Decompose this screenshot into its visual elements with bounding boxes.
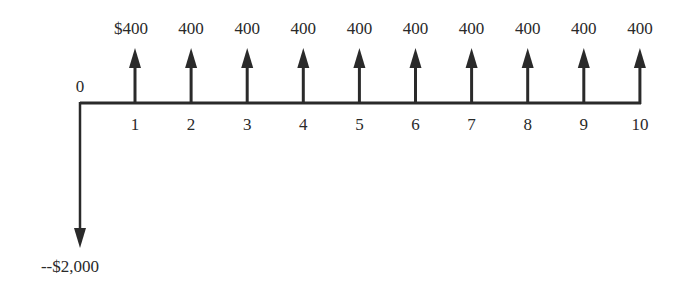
- period-label: 7: [467, 116, 476, 133]
- inflow-arrow-icon: [297, 48, 309, 104]
- inflow-arrow-icon: [634, 48, 646, 104]
- inflow-amount-label: 400: [291, 20, 317, 37]
- inflow-amount-label: 400: [571, 20, 597, 37]
- inflow-arrow-icon: [522, 48, 534, 104]
- inflow-amount-label: $400: [114, 20, 148, 37]
- period-label: 3: [243, 116, 252, 133]
- inflow-amount-label: 400: [459, 20, 485, 37]
- inflow-amount-label: 400: [627, 20, 653, 37]
- inflow-arrow-icon: [353, 48, 365, 104]
- outflow-arrow-icon: [74, 102, 86, 248]
- outflow-label: --$2,000: [41, 258, 99, 275]
- inflow-amount-label: 400: [515, 20, 541, 37]
- period-label: 4: [299, 116, 308, 133]
- period-label: 10: [631, 116, 648, 133]
- origin-label: 0: [76, 78, 85, 95]
- inflow-amount-label: 400: [347, 20, 373, 37]
- inflow-arrow-icon: [185, 48, 197, 104]
- period-label: 8: [523, 116, 532, 133]
- period-label: 6: [411, 116, 420, 133]
- inflow-amount-label: 400: [234, 20, 260, 37]
- inflow-arrow-icon: [578, 48, 590, 104]
- period-label: 5: [355, 116, 364, 133]
- period-label: 9: [580, 116, 589, 133]
- cash-flow-diagram: [0, 0, 680, 285]
- period-label: 1: [131, 116, 140, 133]
- inflow-amount-label: 400: [178, 20, 204, 37]
- inflow-arrow-icon: [410, 48, 422, 104]
- inflow-arrow-icon: [466, 48, 478, 104]
- period-label: 2: [187, 116, 196, 133]
- inflow-arrow-icon: [241, 48, 253, 104]
- inflow-arrow-icon: [129, 48, 141, 104]
- inflow-amount-label: 400: [403, 20, 429, 37]
